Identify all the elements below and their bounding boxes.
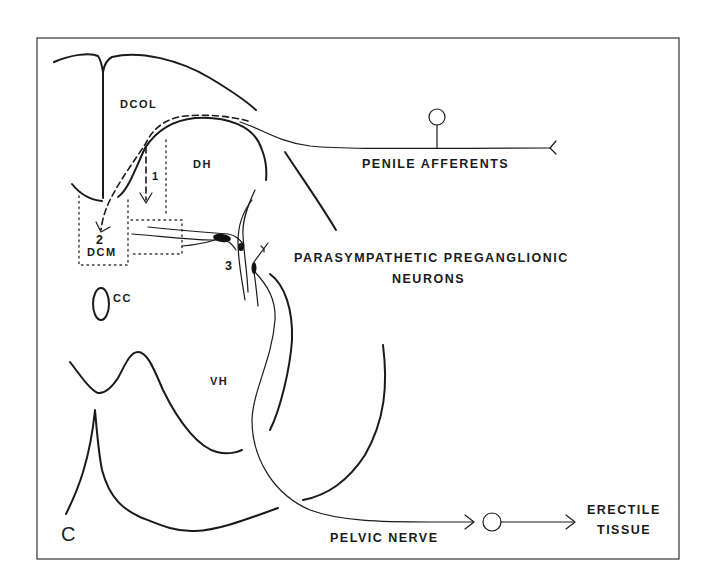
afferent-projection-dashed: [101, 115, 248, 230]
spinal-cord-diagram: DCOL DH 1 2 DCM 3 CC VH PENILE AFFERENTS…: [0, 0, 714, 581]
label-erectile-line2: TISSUE: [597, 523, 651, 537]
label-marker-1: 1: [152, 170, 160, 182]
ventral-outer-arc: [303, 345, 385, 500]
label-vh: VH: [210, 375, 228, 387]
drg-cell-body-icon: [429, 109, 445, 125]
label-dh: DH: [193, 158, 212, 170]
ppn-process-down-a: [254, 272, 258, 306]
lateral-box: [131, 220, 182, 254]
dcm-fiber-lower: [182, 240, 215, 246]
label-dcol: DCOL: [120, 98, 157, 110]
dcol-lower-curve: [72, 184, 102, 201]
figure-frame: [37, 38, 679, 559]
panel-label: C: [61, 523, 75, 545]
afferent-terminal-icon: [550, 141, 556, 154]
pelvic-nerve-efferent: [252, 272, 473, 522]
ventral-horn-outline: [70, 352, 242, 453]
penile-afferent-fiber: [240, 122, 550, 149]
arrowhead-2-icon: [96, 222, 110, 232]
lateral-gray-outline: [270, 274, 292, 430]
ventral-fissure-outline: [66, 410, 278, 531]
label-ppn-line1: PARASYMPATHETIC PREGANGLIONIC: [294, 251, 569, 265]
central-canal-icon: [93, 288, 109, 320]
label-ppn-line2: NEURONS: [392, 272, 465, 286]
label-cc: CC: [113, 292, 132, 304]
lateral-fiber-a: [243, 190, 255, 292]
label-dcm: DCM: [87, 246, 117, 258]
label-marker-2: 2: [96, 233, 104, 247]
label-penile-afferents: PENILE AFFERENTS: [362, 157, 509, 171]
label-erectile-line1: ERECTILE: [587, 503, 661, 517]
label-marker-3: 3: [225, 259, 233, 273]
pelvic-ganglion-cell-icon: [483, 513, 501, 531]
label-pelvic-nerve: PELVIC NERVE: [330, 531, 439, 545]
lateral-white-outline: [285, 152, 336, 230]
